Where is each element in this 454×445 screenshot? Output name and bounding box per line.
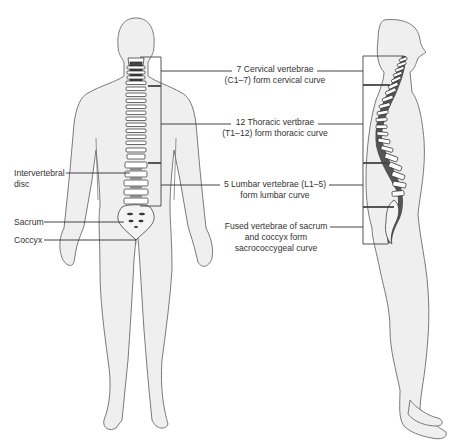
lateral-figure	[363, 20, 446, 439]
spine-diagram: 7 Cervical vertebrae (C1–7) form cervica…	[0, 0, 454, 445]
label-cervical: 7 Cervical vertebrae (C1–7) form cervica…	[225, 64, 326, 86]
lateral-body-silhouette	[366, 20, 446, 439]
label-coccyx: Coccyx	[14, 235, 42, 246]
label-lumbar: 5 Lumbar vertebrae (L1–5) form lumbar cu…	[224, 179, 326, 201]
label-thoracic: 12 Thoracic vertbrae (T1–12) form thorac…	[222, 117, 328, 139]
label-sacrococcygeal: Fused vertebrae of sacrum and coccyx for…	[225, 221, 328, 254]
posterior-figure	[60, 18, 213, 430]
label-intervertebral-disc: Intervertebral disc	[14, 168, 65, 190]
label-sacrum: Sacrum	[14, 217, 44, 228]
